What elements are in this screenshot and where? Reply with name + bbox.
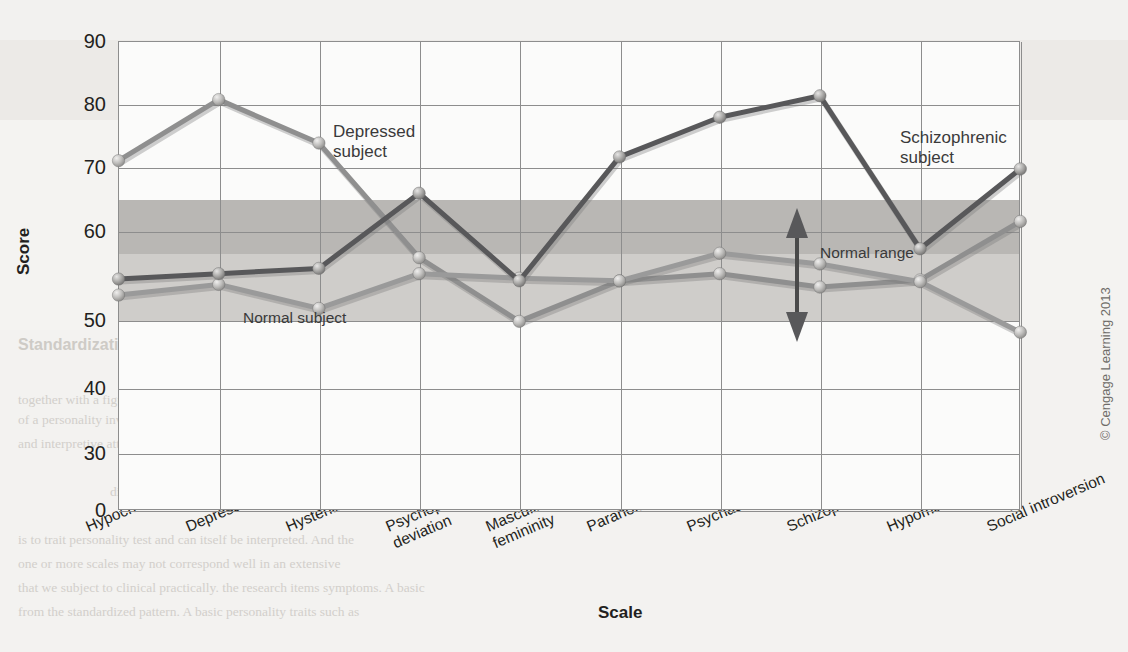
gridline-vertical: [320, 42, 321, 509]
y-tick-label: 50: [46, 309, 106, 332]
annotation-schizophrenic-line2: subject: [900, 148, 954, 167]
gridline-vertical: [220, 42, 221, 509]
gridline-vertical: [420, 42, 421, 509]
gridline-vertical: [1021, 42, 1022, 509]
gridline-horizontal: [119, 454, 1019, 455]
y-tick-label: 70: [46, 156, 106, 179]
gridline-horizontal: [119, 105, 1019, 106]
annotation-schizophrenic-subject: Schizophrenic subject: [900, 128, 1007, 167]
y-tick-label: 30: [46, 442, 106, 465]
y-tick-label: 40: [46, 377, 106, 400]
gridline-horizontal: [119, 232, 1019, 233]
x-axis-title: Scale: [598, 603, 642, 623]
y-axis-title: Score: [14, 228, 34, 275]
annotation-normal-range: Normal range: [820, 244, 914, 262]
gridline-vertical: [621, 42, 622, 509]
plot-area: [118, 41, 1020, 510]
gridline-horizontal: [119, 168, 1019, 169]
gridline-horizontal: [119, 511, 1019, 512]
annotation-depressed-line1: Depressed: [333, 122, 415, 141]
y-tick-label: 90: [46, 30, 106, 53]
copyright-notice: © Cengage Learning 2013: [1098, 287, 1113, 440]
y-tick-label: 80: [46, 93, 106, 116]
y-tick-label: 60: [46, 220, 106, 243]
annotation-depressed-line2: subject: [333, 142, 387, 161]
gridline-vertical: [520, 42, 521, 509]
annotation-normal-subject: Normal subject: [243, 309, 346, 327]
annotation-schizophrenic-line1: Schizophrenic: [900, 128, 1007, 147]
gridline-vertical: [921, 42, 922, 509]
annotation-depressed-subject: Depressed subject: [333, 122, 415, 161]
gridline-vertical: [721, 42, 722, 509]
mmpi-profile-chart: Score Scale 908070605040300 Hypochondria…: [0, 0, 1128, 652]
gridline-vertical: [821, 42, 822, 509]
gridline-horizontal: [119, 389, 1019, 390]
